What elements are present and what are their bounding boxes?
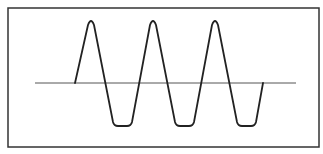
clipped-waveform bbox=[75, 21, 263, 126]
diagram-frame bbox=[8, 8, 319, 147]
waveform-diagram bbox=[0, 0, 323, 154]
